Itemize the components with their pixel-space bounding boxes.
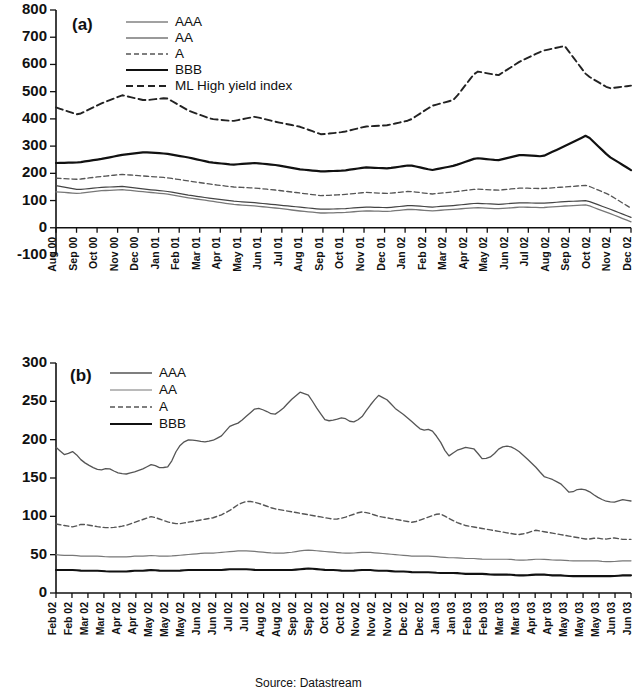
legend-label-aa: AA <box>175 30 193 45</box>
x-tick-label: Sep 00 <box>67 237 79 271</box>
x-tick-label: Apr 01 <box>210 237 222 270</box>
x-tick-label: May 02 <box>477 237 489 272</box>
x-tick-label: Sep 02 <box>559 237 571 271</box>
y-tick-label: 250 <box>22 391 47 408</box>
x-tick-label: Jul 02 <box>238 602 250 632</box>
legend-label-a: A <box>175 46 184 61</box>
x-tick-label: Jun 02 <box>498 237 510 270</box>
x-tick-label: Mar 01 <box>190 237 202 270</box>
x-tick-label: Apr 02 <box>110 602 122 635</box>
x-tick-label: Feb 02 <box>46 602 58 635</box>
x-tick-label: Dec 01 <box>375 237 387 271</box>
x-tick-label: Oct 00 <box>87 237 99 269</box>
x-tick-label: Aug 02 <box>270 602 282 637</box>
legend-label-ml-high-yield-index: ML High yield index <box>175 78 293 93</box>
legend-label-aa: AA <box>159 382 177 397</box>
x-tick-label: Sep 02 <box>286 602 298 636</box>
x-tick-label: Oct 02 <box>580 237 592 269</box>
x-tick-label: Jun 03 <box>621 602 633 635</box>
x-tick-label: Nov 01 <box>354 237 366 272</box>
x-tick-label: Oct 02 <box>318 602 330 634</box>
y-tick-label: 400 <box>22 109 47 126</box>
y-tick-label: -100 <box>17 245 47 262</box>
y-tick-label: 100 <box>22 506 47 523</box>
x-tick-label: Jan 03 <box>445 602 457 635</box>
legend-label-bbb: BBB <box>175 62 202 77</box>
x-tick-label: Aug 01 <box>292 237 304 272</box>
legend-label-bbb: BBB <box>159 416 186 431</box>
x-tick-label: Mar 02 <box>94 602 106 635</box>
x-tick-label: Jan 01 <box>149 237 161 270</box>
series-bbb <box>56 136 631 172</box>
x-tick-label: Nov 02 <box>381 602 393 637</box>
x-tick-label: Jan 02 <box>395 237 407 270</box>
y-tick-label: 500 <box>22 82 47 99</box>
x-tick-label: Aug 00 <box>46 237 58 272</box>
panel-label: (a) <box>72 15 93 34</box>
x-tick-label: May 03 <box>557 602 569 637</box>
y-tick-label: 50 <box>30 545 47 562</box>
legend-label-aaa: AAA <box>175 14 202 29</box>
panel-b-chart: 050100150200250300Feb 02Feb 02Mar 02Mar … <box>0 345 637 675</box>
y-tick-label: 600 <box>22 54 47 71</box>
x-tick-label: Feb 03 <box>477 602 489 635</box>
x-tick-label: May 02 <box>158 602 170 637</box>
y-tick-label: 150 <box>22 468 47 485</box>
x-tick-label: Jul 02 <box>222 602 234 632</box>
x-tick-label: Feb 02 <box>62 602 74 635</box>
x-tick-label: Sep 01 <box>313 237 325 271</box>
x-tick-label: Oct 02 <box>334 602 346 634</box>
panel-a-svg: -1000100200300400500600700800Aug 00Sep 0… <box>0 0 637 345</box>
x-tick-label: Mar 02 <box>436 237 448 270</box>
series-aa <box>56 550 631 561</box>
series-aaa <box>56 392 631 502</box>
x-tick-label: Nov 02 <box>349 602 361 637</box>
x-tick-label: Jun 03 <box>605 602 617 635</box>
x-tick-label: Dec 02 <box>413 602 425 636</box>
x-tick-label: May 03 <box>589 602 601 637</box>
x-tick-label: Nov 02 <box>365 602 377 637</box>
y-tick-label: 100 <box>22 191 47 208</box>
x-tick-label: Jul 02 <box>518 237 530 267</box>
x-tick-label: Aug 02 <box>539 237 551 272</box>
x-tick-label: Nov 02 <box>600 237 612 272</box>
y-tick-label: 300 <box>22 136 47 153</box>
x-tick-label: Oct 01 <box>334 237 346 269</box>
x-tick-label: Jun 01 <box>251 237 263 270</box>
x-tick-label: May 02 <box>174 602 186 637</box>
x-tick-label: Sep 02 <box>302 602 314 636</box>
legend-label-a: A <box>159 399 168 414</box>
panel-b-svg: 050100150200250300Feb 02Feb 02Mar 02Mar … <box>0 345 637 675</box>
x-tick-label: Apr 02 <box>457 237 469 270</box>
x-tick-label: Jan 03 <box>429 602 441 635</box>
x-tick-label: Mar 03 <box>493 602 505 635</box>
series-bbb <box>56 568 631 576</box>
x-tick-label: Feb 03 <box>461 602 473 635</box>
x-tick-label: May 03 <box>573 602 585 637</box>
source-note: Source: Datastream <box>255 676 362 689</box>
panel-a-chart: -1000100200300400500600700800Aug 00Sep 0… <box>0 0 637 345</box>
x-tick-label: Nov 00 <box>108 237 120 272</box>
x-tick-label: Apr 03 <box>541 602 553 635</box>
x-tick-label: Jul 01 <box>272 237 284 267</box>
y-tick-label: 300 <box>22 353 47 370</box>
x-tick-label: Jun 02 <box>190 602 202 635</box>
y-tick-label: 0 <box>39 583 47 600</box>
y-tick-label: 0 <box>39 218 47 235</box>
x-tick-label: Dec 00 <box>128 237 140 271</box>
x-tick-label: Feb 02 <box>416 237 428 270</box>
x-tick-label: Aug 02 <box>254 602 266 637</box>
x-tick-label: May 01 <box>231 237 243 272</box>
x-tick-label: Dec 02 <box>397 602 409 636</box>
y-tick-label: 800 <box>22 0 47 17</box>
series-a <box>56 501 631 539</box>
x-tick-label: May 02 <box>142 602 154 637</box>
series-ml-high-yield-index <box>56 46 631 134</box>
y-tick-label: 200 <box>22 430 47 447</box>
x-tick-label: Dec 02 <box>621 237 633 271</box>
x-tick-label: Mar 03 <box>509 602 521 635</box>
x-tick-label: Apr 03 <box>525 602 537 635</box>
y-tick-label: 200 <box>22 163 47 180</box>
x-tick-label: Mar 02 <box>78 602 90 635</box>
x-tick-label: Apr 02 <box>126 602 138 635</box>
